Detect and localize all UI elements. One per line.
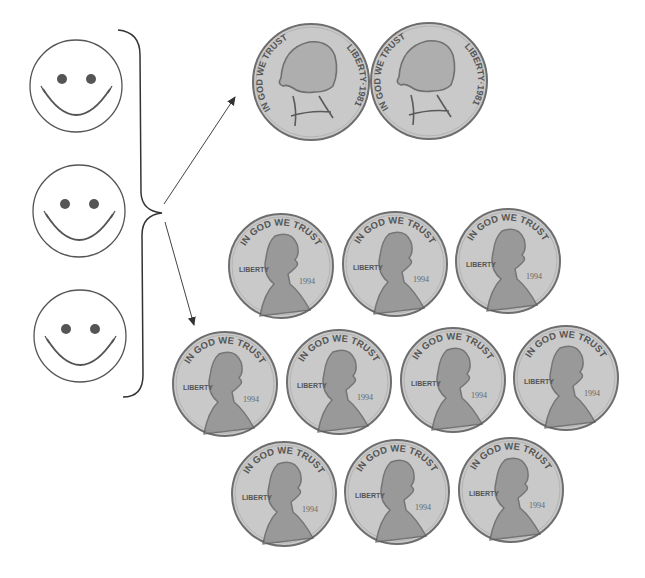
coin-liberty: LIBERTY [353,264,383,271]
coin-year: 1994 [584,389,600,398]
coin-liberty: LIBERTY [411,380,441,387]
nickel-coin-icon: IN GOD WE TRUSTLIBERTY·1981 [371,23,487,139]
arrow-to-pennies [165,222,194,325]
coin-year: 1994 [299,277,315,286]
coin-liberty: LIBERTY [469,490,499,497]
eye [61,324,71,334]
penny-coin-icon: IN GOD WE TRUSTLIBERTY1994 [514,326,618,430]
eye [60,199,70,209]
coin-year: 1994 [243,395,259,404]
eye [86,74,96,84]
pennies-group: IN GOD WE TRUSTLIBERTY1994IN GOD WE TRUS… [173,209,618,546]
penny-coin-icon: IN GOD WE TRUSTLIBERTY1994 [232,442,336,546]
eye [89,199,99,209]
smiley-face-icon [33,165,125,257]
arrow-to-nickels [164,97,235,204]
coin-liberty: LIBERTY [239,266,269,273]
coin-year: 1994 [526,272,542,281]
coin-year: 1994 [529,501,545,510]
penny-coin-icon: IN GOD WE TRUSTLIBERTY1994 [456,209,560,313]
coin-year: 1994 [413,275,429,284]
coin-year: 1994 [302,505,318,514]
coin-liberty: LIBERTY [466,261,496,268]
penny-coin-icon: IN GOD WE TRUSTLIBERTY1994 [345,440,449,544]
coin-liberty: LIBERTY [355,492,385,499]
nickels-group: IN GOD WE TRUSTLIBERTY·1981IN GOD WE TRU… [253,23,487,140]
penny-coin-icon: IN GOD WE TRUSTLIBERTY1994 [343,212,447,316]
coin-year: 1994 [357,393,373,402]
coin-liberty: LIBERTY [242,494,272,501]
coin-liberty: LIBERTY [183,384,213,391]
penny-coin-icon: IN GOD WE TRUSTLIBERTY1994 [173,332,277,436]
coin-year: 1994 [415,503,431,512]
coin-liberty: LIBERTY [524,378,554,385]
smiley-face-icon [34,290,126,382]
coin-year: 1994 [471,391,487,400]
coin-liberty: LIBERTY [297,382,327,389]
penny-coin-icon: IN GOD WE TRUSTLIBERTY1994 [459,438,563,542]
share-diagram: IN GOD WE TRUSTLIBERTY·1981IN GOD WE TRU… [0,0,645,578]
eye [90,324,100,334]
penny-coin-icon: IN GOD WE TRUSTLIBERTY1994 [287,330,391,434]
penny-coin-icon: IN GOD WE TRUSTLIBERTY1994 [229,214,333,318]
eye [57,74,67,84]
nickel-coin-icon: IN GOD WE TRUSTLIBERTY·1981 [253,24,369,140]
penny-coin-icon: IN GOD WE TRUSTLIBERTY1994 [401,328,505,432]
people-group [30,40,126,382]
smiley-face-icon [30,40,122,132]
arrows [164,97,235,325]
